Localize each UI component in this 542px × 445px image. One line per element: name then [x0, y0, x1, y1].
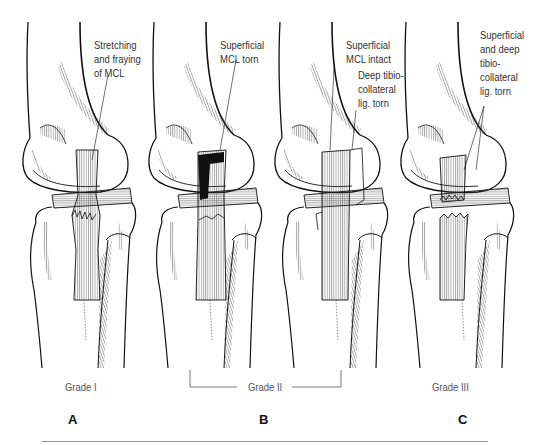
grade-iii-label: Grade III [432, 381, 469, 393]
label-line: Superficial [480, 28, 524, 42]
panel-b1-knee [149, 22, 262, 368]
label-line: MCL intact [346, 52, 391, 66]
panel-letter-b: B [259, 412, 268, 427]
panel-letter-c: C [458, 412, 467, 427]
label-line: and deep [480, 42, 524, 56]
label-line: MCL torn [220, 52, 264, 66]
label-grade-ii-superficial-torn: Superficial MCL torn [220, 38, 264, 66]
label-line: and fraying [94, 52, 141, 66]
panel-letter-a: A [68, 412, 77, 427]
label-line: Superficial [346, 38, 391, 52]
label-grade-ii-superficial-intact: Superficial MCL intact [346, 38, 391, 66]
label-line: collateral [358, 82, 404, 96]
label-line: Superficial [220, 38, 264, 52]
knee-mcl-injury-illustration [0, 0, 542, 445]
label-line: tibio- [480, 56, 524, 70]
bottom-rule [42, 441, 488, 442]
label-line: lig. torn [480, 84, 524, 98]
label-line: lig. torn [358, 96, 404, 110]
label-grade-i-description: Stretching and fraying of MCL [94, 38, 141, 80]
grade-i-label: Grade I [65, 381, 97, 393]
label-line: of MCL [94, 66, 141, 80]
label-line: Stretching [94, 38, 141, 52]
label-line: collateral [480, 70, 524, 84]
grade-ii-label: Grade II [248, 381, 282, 393]
label-grade-ii-deep-torn: Deep tibio- collateral lig. torn [358, 68, 404, 110]
label-line: Deep tibio- [358, 68, 404, 82]
label-grade-iii-description: Superficial and deep tibio- collateral l… [480, 28, 524, 98]
